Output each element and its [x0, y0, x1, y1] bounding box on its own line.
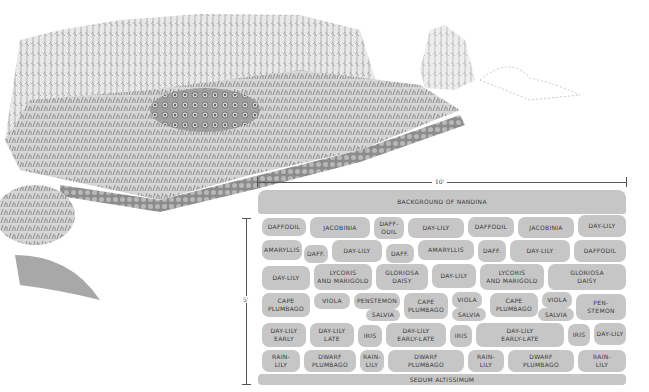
plant-label: RAIN- LILY	[593, 353, 611, 369]
plan-cell: PEN- STEMON	[576, 294, 626, 320]
plant-label: DAY-LILY EARLY-LATE	[501, 327, 538, 343]
plant-label: LYCORIS AND MARIGOLD	[486, 269, 537, 285]
plan-cell: DAY-LILY	[594, 323, 626, 345]
plant-label: IRIS	[364, 332, 377, 340]
plan-cell: RAIN- LILY	[262, 350, 300, 372]
plant-label: RAIN- LILY	[477, 353, 495, 369]
plant-label: DWARF PLUMBAGO	[523, 353, 559, 369]
plant-label: GLORIOSA DAISY	[385, 269, 419, 285]
plant-label: DAY-LILY	[527, 247, 554, 255]
plan-cell: DAY-LILY	[262, 266, 310, 290]
plant-label: VIOLA	[322, 297, 342, 305]
plan-cell: AMARYLLIS	[262, 240, 302, 260]
plan-cell: IRIS	[450, 325, 472, 347]
plan-cell: CAPE PLUMBAGO	[404, 293, 448, 319]
plant-label: DWARF PLUMBAGO	[312, 353, 348, 369]
plan-cell: PENSTEMON	[354, 293, 400, 309]
plant-label: JACOBINIA	[529, 224, 563, 232]
plan-cell: GLORIOSA DAISY	[548, 264, 626, 290]
plan-cell: DAY-LILY LATE	[310, 323, 354, 347]
plan-cell: RAIN- LILY	[468, 350, 504, 372]
plant-label: DWARF PLUMBAGO	[408, 353, 444, 369]
plan-cell: JACOBINIA	[518, 217, 574, 238]
plan-cell: RAIN- LILY	[578, 350, 626, 372]
plan-cell: DAY-LILY EARLY	[262, 323, 306, 347]
plant-label: SALVIA	[372, 311, 395, 319]
plant-label: DAY-LILY	[344, 247, 371, 255]
plan-cell: DAFFODIL	[574, 240, 626, 262]
plan-cell: LYCORIS AND MARIGOLD	[314, 264, 372, 290]
plan-cell: DAFF.	[478, 240, 506, 262]
plan-cell: SALVIA	[366, 309, 400, 321]
plant-label: DAFFODIL	[268, 223, 300, 231]
plant-label: DAY-LILY EARLY	[271, 327, 298, 343]
plant-label: DAY-LILY	[597, 330, 624, 338]
plant-label: AMARYLLIS	[428, 246, 464, 254]
plan-cell: GLORIOSA DAISY	[376, 264, 428, 290]
plan-cell: VIOLA	[314, 293, 350, 309]
plant-label: CAPE PLUMBAGO	[268, 297, 304, 313]
plant-label: DAFF.	[483, 247, 501, 255]
plant-label: DAY-LILY	[441, 272, 468, 280]
plant-label: RAIN- LILY	[363, 353, 381, 369]
plant-label: DAY-LILY EARLY-LATE	[397, 327, 434, 343]
plant-label: DAY-LILY LATE	[319, 327, 346, 343]
edging-sedum-row: SEDUM ALTISSIMUM	[258, 374, 626, 385]
plant-label: DAFFODIL	[475, 223, 507, 231]
plan-cell: DAFF.	[386, 244, 414, 263]
plan-cell: SALVIA	[452, 308, 486, 321]
plan-cell: DAFFODIL	[262, 218, 306, 236]
plant-label: JACOBINIA	[323, 224, 357, 232]
background-nandina-row: BACKGROUND OF NANDINA	[258, 190, 626, 214]
plant-label: PEN- STEMON	[587, 299, 614, 315]
plant-label: DAFF.	[391, 250, 409, 258]
plan-cell: JACOBINIA	[310, 217, 370, 238]
plan-cell: DWARF PLUMBAGO	[304, 350, 356, 372]
depth-dimension-label: 5'	[240, 296, 251, 303]
plan-cell: AMARYLLIS	[418, 240, 474, 260]
plant-label: LYCORIS AND MARIGOLD	[317, 269, 368, 285]
width-dimension-label: 10'	[432, 178, 447, 185]
plan-cell: DAY-LILY	[510, 240, 570, 262]
plan-cell: RAIN- LILY	[360, 350, 384, 372]
plant-label: PENSTEMON	[357, 297, 397, 305]
plant-label: DAFFODIL	[584, 247, 616, 255]
plant-label: SALVIA	[545, 311, 568, 319]
plan-cell: IRIS	[568, 324, 590, 346]
plan-cell: DAFF.	[304, 245, 328, 263]
plan-cell: DAY-LILY	[332, 240, 382, 262]
plant-label: VIOLA	[457, 296, 477, 304]
planting-plan: BACKGROUND OF NANDINA DAFFODILJACOBINIAD…	[256, 188, 628, 385]
plan-cell: DAY-LILY	[578, 215, 626, 237]
garden-plan-figure: 10' 5' BACKGROUND OF NANDINA DAFFODILJAC…	[0, 0, 649, 392]
plan-cell: DAY-LILY	[408, 218, 464, 238]
plan-cell: DAY-LILY EARLY-LATE	[386, 323, 446, 347]
plant-label: DAY-LILY	[589, 222, 616, 230]
plan-cell: IRIS	[358, 325, 382, 347]
plan-cell: CAPE PLUMBAGO	[262, 293, 310, 317]
plant-label: CAPE PLUMBAGO	[496, 297, 532, 313]
plant-label: DAFF- ODIL	[379, 220, 398, 236]
plan-cell: DAFF- ODIL	[374, 217, 404, 239]
plant-label: SALVIA	[458, 311, 481, 319]
plan-cell: VIOLA	[452, 292, 482, 308]
plan-cell: VIOLA	[542, 292, 572, 308]
shrub-lower-left-drawing	[0, 185, 100, 300]
plant-label: DAY-LILY	[273, 274, 300, 282]
plan-cell: SALVIA	[538, 308, 574, 321]
plan-cell: CAPE PLUMBAGO	[490, 293, 538, 317]
plant-label: AMARYLLIS	[264, 246, 300, 254]
plan-cell: DAY-LILY EARLY-LATE	[476, 323, 564, 347]
plan-cell: DAY-LILY	[432, 264, 476, 288]
plant-label: IRIS	[455, 332, 468, 340]
plant-label: DAY-LILY	[423, 224, 450, 232]
plant-label: DAFF.	[307, 250, 325, 258]
plan-cell: DAFFODIL	[468, 217, 514, 237]
plant-label: GLORIOSA DAISY	[570, 269, 604, 285]
plan-cell: DWARF PLUMBAGO	[508, 350, 574, 372]
plant-label: RAIN- LILY	[272, 353, 290, 369]
plant-label: IRIS	[573, 331, 586, 339]
plan-cell: LYCORIS AND MARIGOLD	[480, 264, 544, 290]
plant-label: CAPE PLUMBAGO	[408, 298, 444, 314]
plan-cell: DWARF PLUMBAGO	[388, 350, 464, 372]
